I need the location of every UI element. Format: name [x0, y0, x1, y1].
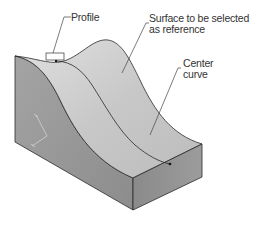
profile-leader: [53, 17, 71, 53]
profile-box: [46, 53, 64, 60]
surface-label-line2: as reference: [149, 24, 205, 35]
profile-label: Profile: [71, 12, 99, 23]
center-curve-label-line2: curve: [183, 69, 208, 80]
center-curve-endpoint: [169, 163, 172, 166]
diagram-canvas: Profile Surface to be selected as refere…: [0, 0, 253, 225]
solid-model: [0, 0, 253, 225]
